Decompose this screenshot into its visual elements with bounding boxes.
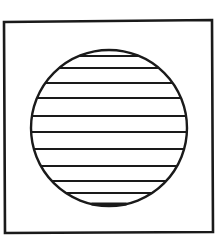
horizontal-hatch-lines — [31, 56, 187, 204]
circle-outline — [31, 50, 187, 206]
square-frame — [4, 20, 213, 233]
hatched-circle-in-square-diagram — [0, 0, 221, 244]
